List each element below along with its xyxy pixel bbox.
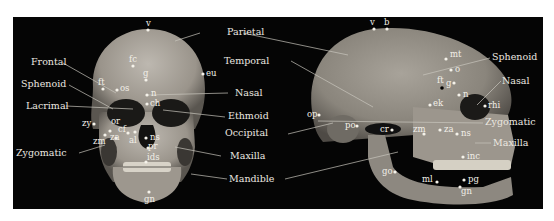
- label-ethmoid: Ethmoid: [228, 111, 269, 121]
- landmark-ft-anterior: ft: [98, 78, 105, 87]
- landmark-ids: ids: [147, 153, 160, 162]
- landmark-ch: ch: [150, 99, 160, 108]
- landmark-cr: cr: [380, 125, 389, 134]
- landmark-o: o: [455, 65, 460, 74]
- label-sphenoid-anterior: Sphenoid: [21, 79, 66, 89]
- landmark-n-anterior: n: [151, 89, 156, 98]
- skull-diagram-panel: Frontal Sphenoid Lacrimal Zygomatic v fc…: [13, 17, 543, 209]
- label-nasal-center: Nasal: [235, 88, 263, 98]
- landmark-os: os: [120, 84, 129, 93]
- landmark-rhi: rhi: [488, 101, 500, 110]
- label-nasal-lateral: Nasal: [502, 76, 530, 86]
- landmark-ml: ml: [422, 175, 433, 184]
- label-occipital: Occipital: [225, 128, 268, 138]
- landmark-v-lateral: v: [370, 18, 375, 27]
- label-zygomatic-anterior: Zygomatic: [16, 148, 67, 158]
- landmark-eu: eu: [206, 69, 217, 78]
- landmark-v-anterior: v: [146, 19, 151, 28]
- landmark-b: b: [384, 18, 389, 27]
- landmark-pg: pg: [468, 175, 479, 184]
- landmark-ek: ek: [433, 99, 443, 108]
- landmark-inc: inc: [467, 152, 480, 161]
- skull-illustrations: [13, 17, 543, 209]
- landmark-n-lateral: n: [463, 90, 468, 99]
- label-parietal: Parietal: [227, 27, 264, 37]
- landmark-pr: pr: [148, 142, 158, 151]
- anterior-skull: [91, 29, 205, 203]
- landmark-zm-lateral: zm: [413, 125, 426, 134]
- label-mandible: Mandible: [229, 174, 274, 184]
- landmark-za-lateral: za: [444, 125, 454, 134]
- label-lacrimal: Lacrimal: [26, 101, 69, 111]
- landmark-gn-lateral: gn: [461, 187, 472, 196]
- landmark-mt: mt: [450, 50, 461, 59]
- landmark-fc: fc: [129, 55, 137, 64]
- landmark-ns-lateral: ns: [461, 129, 471, 138]
- landmark-op: op: [307, 110, 318, 119]
- label-frontal: Frontal: [31, 57, 67, 67]
- landmark-ft-lateral: ft: [437, 76, 444, 85]
- landmark-al: al: [129, 136, 137, 145]
- landmark-zy: zy: [82, 119, 91, 128]
- label-zygomatic-lateral: Zygomatic: [485, 117, 536, 127]
- landmark-go: go: [382, 167, 393, 176]
- label-maxilla-lateral: Maxilla: [493, 138, 529, 148]
- landmark-gn-anterior: gn: [144, 195, 155, 204]
- landmark-po: po: [345, 121, 356, 130]
- landmark-za-anterior: za: [110, 133, 120, 142]
- landmark-g-lateral: g: [446, 79, 451, 88]
- label-sphenoid-lateral: Sphenoid: [492, 52, 537, 62]
- label-maxilla-center: Maxilla: [230, 151, 266, 161]
- landmark-g-anterior: g: [143, 69, 148, 78]
- landmark-zm-anterior: zm: [93, 137, 106, 146]
- label-temporal: Temporal: [224, 56, 269, 66]
